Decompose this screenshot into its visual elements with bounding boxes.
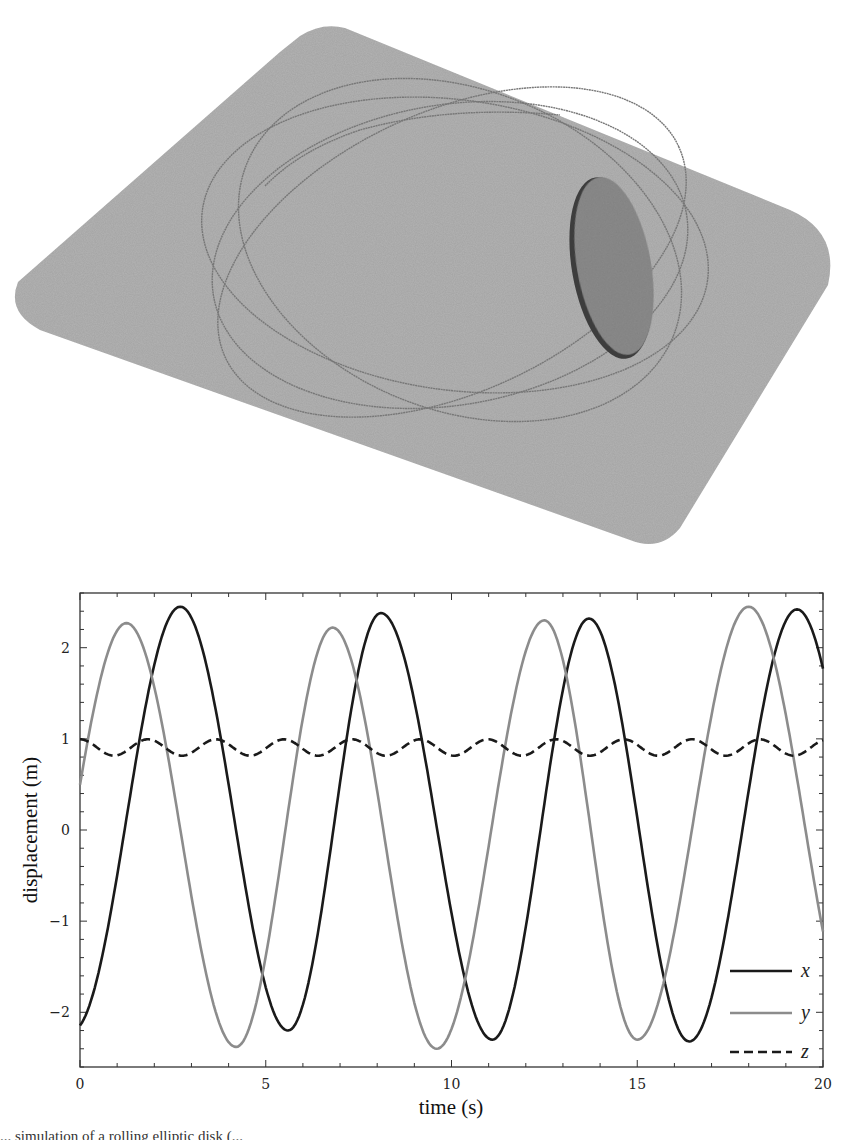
y-tick-label: 1: [61, 731, 70, 747]
y-tick-label: 2: [61, 640, 70, 656]
y-tick-label: 0: [61, 822, 70, 838]
legend-label-x: x: [800, 959, 810, 981]
rolling-disk-scene: [0, 0, 853, 560]
figure-caption-fragment: ... simulation of a rolling elliptic dis…: [0, 1128, 853, 1140]
legend-label-z: z: [800, 1040, 809, 1062]
series-layer: [80, 607, 823, 1049]
x-tick-label: 10: [443, 1076, 461, 1092]
legend: xyz: [730, 959, 810, 1062]
ground-plane: [15, 26, 830, 544]
series-x-line: [80, 607, 823, 1042]
y-axis-label: displacement (m): [18, 757, 42, 903]
series-y-line: [80, 607, 823, 1049]
x-tick-label: 5: [261, 1076, 270, 1092]
x-tick-label: 15: [628, 1076, 646, 1092]
series-z-line: [80, 739, 823, 755]
x-axis-label: time (s): [419, 1095, 484, 1119]
x-axis-ticks: 05101520: [76, 593, 832, 1092]
x-tick-label: 0: [76, 1076, 85, 1092]
y-tick-label: −1: [49, 913, 70, 929]
x-tick-label: 20: [814, 1076, 832, 1092]
legend-label-y: y: [799, 1001, 810, 1024]
displacement-chart: 05101520 −2−1012 xyz time (s) displaceme…: [0, 560, 853, 1137]
y-tick-label: −2: [49, 1004, 70, 1020]
